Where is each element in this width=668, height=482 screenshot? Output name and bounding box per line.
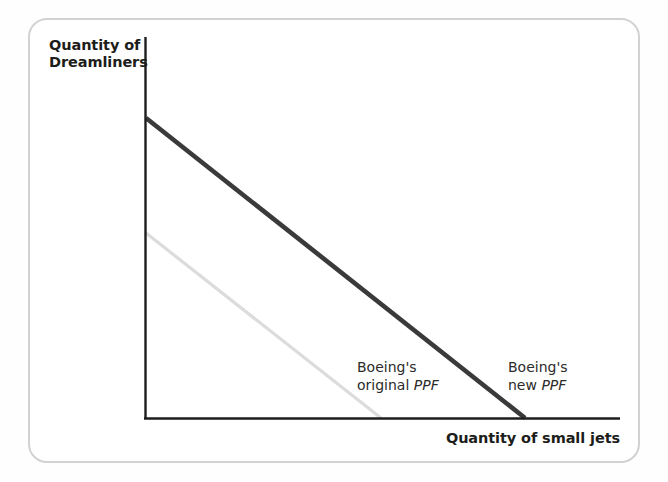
original-ppf-label-line2-prefix: original [357,377,414,393]
figure-card-border [28,18,640,463]
ppf-figure: Quantity of Dreamliners Quantity of smal… [0,0,668,482]
x-axis-title: Quantity of small jets [406,430,620,447]
new-ppf-label-line2-prefix: new [508,377,541,393]
new-ppf-label: Boeing's new PPF [508,358,568,394]
new-ppf-label-abbr: PPF [541,377,566,393]
original-ppf-label-abbr: PPF [414,377,439,393]
original-ppf-label: Boeing's original PPF [357,358,439,394]
y-axis-title: Quantity of Dreamliners [49,37,153,71]
new-ppf-label-line1: Boeing's [508,359,568,375]
original-ppf-label-line1: Boeing's [357,359,417,375]
